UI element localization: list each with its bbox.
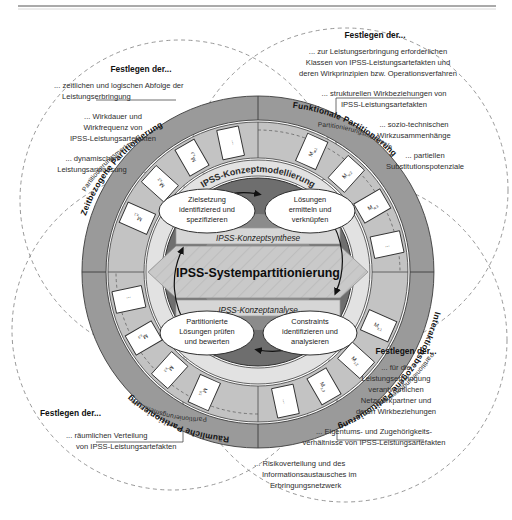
core-center-label: IPSS-Systempartitionierung xyxy=(176,266,340,280)
activity-line: Constraints xyxy=(291,317,329,326)
figure-canvas: IPSS-Systempartitionierung IPSS-Konzepts… xyxy=(0,0,512,520)
band-top-label-text: IPSS-Konzeptsynthese xyxy=(216,234,301,243)
activity-line: Zielsetzung xyxy=(188,195,226,204)
ipss-partitioning-diagram: IPSS-Systempartitionierung IPSS-Konzepts… xyxy=(0,0,512,520)
activity-line: identifizieren und xyxy=(282,327,338,336)
activity-ellipse-top-right: Lösungen ermitteln und verknüpfen xyxy=(265,189,355,233)
activity-line: verknüpfen xyxy=(292,215,329,224)
activity-line: spezifizieren xyxy=(186,215,227,224)
activity-ellipse-bottom-left: Partitionierte Lösungen prüfen und bewer… xyxy=(160,311,254,355)
band-top-label: IPSS-Konzeptsynthese xyxy=(216,234,301,243)
activity-line: und bewerten xyxy=(185,337,230,346)
activity-line: Lösungen prüfen xyxy=(179,327,234,336)
activity-ellipse-top-left: Zielsetzung identifiziered und spezifizi… xyxy=(159,189,255,233)
activity-ellipse-bottom-right: Constraints identifizieren und analysier… xyxy=(263,311,357,355)
activity-line: ermitteln und xyxy=(289,205,332,214)
activity-line: Partitionierte xyxy=(186,317,228,326)
activity-line: Lösungen xyxy=(294,195,326,204)
activity-line: analysieren xyxy=(291,337,329,346)
top-rule xyxy=(18,6,496,9)
core-center-label-text: IPSS-Systempartitionierung xyxy=(176,266,340,280)
activity-line: identifiziered und xyxy=(179,205,235,214)
